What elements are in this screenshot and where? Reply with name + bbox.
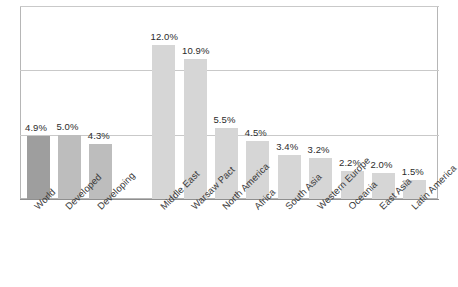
value-label-north-america: 5.5% [213,114,235,125]
value-label-south-asia: 3.4% [276,141,298,152]
value-label-developing: 4.3% [88,130,110,141]
value-label-middle-east: 12.0% [151,31,178,42]
value-label-world: 4.9% [25,122,47,133]
value-label-east-asia: 2.0% [370,159,392,170]
value-label-warsaw-pact: 10.9% [182,45,209,56]
value-label-developed: 5.0% [56,121,78,132]
value-label-western-europe: 3.2% [308,144,330,155]
value-label-africa: 4.5% [245,127,267,138]
bar-middle-east[interactable] [152,45,175,199]
